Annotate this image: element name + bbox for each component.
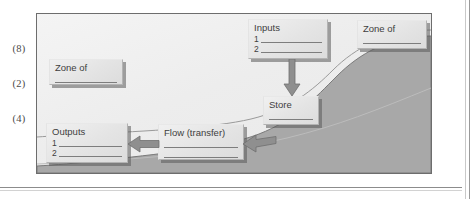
flow-line-1-rule [164, 147, 238, 148]
label-box-store-rows [269, 111, 313, 121]
store-line-1-rule [269, 119, 313, 120]
input-line-2[interactable]: 2 [254, 44, 322, 54]
label-box-store-title: Store [269, 99, 313, 110]
zone-left-line-1-rule [55, 82, 117, 83]
arrow-left-icon-1 [128, 135, 160, 153]
page-edge-rule-right-inner [465, 0, 466, 199]
label-box-store[interactable]: Store [263, 96, 319, 125]
flow-line-1[interactable] [164, 139, 238, 149]
label-box-flow-rows [164, 139, 238, 159]
flow-line-2-rule [164, 157, 238, 158]
input-line-1-number: 1 [254, 35, 261, 44]
store-line-1[interactable] [269, 111, 313, 121]
arrow-left-icon-2 [243, 133, 277, 153]
output-line-2-number: 2 [52, 149, 59, 158]
label-box-zone-left-title: Zone of [55, 62, 117, 73]
page-edge-rule-bottom [0, 187, 462, 188]
label-box-inputs[interactable]: Inputs 1 2 [248, 19, 328, 59]
arrow-down-icon [283, 59, 301, 97]
label-box-inputs-rows: 1 2 [254, 34, 322, 54]
input-line-1-rule [261, 42, 322, 43]
label-box-outputs[interactable]: Outputs 1 2 [46, 123, 128, 163]
input-line-2-number: 2 [254, 45, 261, 54]
zone-top-line-1-rule [363, 43, 421, 44]
diagram-frame: Inputs 1 2 Zone of Zo [36, 13, 432, 174]
label-box-outputs-title: Outputs [52, 126, 122, 137]
output-line-1[interactable]: 1 [52, 138, 122, 148]
label-box-outputs-rows: 1 2 [52, 138, 122, 158]
worksheet-page: (8) (2) (4) Inputs 1 2 [0, 0, 470, 199]
label-box-zone-top-title: Zone of [363, 23, 421, 34]
label-box-flow[interactable]: Flow (transfer) [158, 124, 244, 160]
zone-left-line-1[interactable] [55, 74, 117, 84]
label-box-zone-top-rows [363, 35, 421, 45]
zone-top-line-1[interactable] [363, 35, 421, 45]
label-box-zone-top[interactable]: Zone of [357, 20, 427, 49]
page-edge-rule-bottom-inner [0, 190, 462, 191]
label-box-inputs-title: Inputs [254, 22, 322, 33]
margin-marks: (8) (2) (4) [4, 12, 36, 162]
margin-mark-2: (2) [4, 78, 34, 89]
label-box-flow-title: Flow (transfer) [164, 127, 238, 138]
output-line-1-number: 1 [52, 139, 59, 148]
label-box-zone-left-rows [55, 74, 117, 84]
input-line-2-rule [261, 52, 322, 53]
margin-mark-3: (4) [4, 113, 34, 124]
output-line-2[interactable]: 2 [52, 148, 122, 158]
label-box-zone-left[interactable]: Zone of [49, 59, 123, 85]
input-line-1[interactable]: 1 [254, 34, 322, 44]
margin-mark-1: (8) [4, 43, 34, 54]
output-line-2-rule [59, 156, 122, 157]
output-line-1-rule [59, 146, 122, 147]
flow-line-2[interactable] [164, 149, 238, 159]
